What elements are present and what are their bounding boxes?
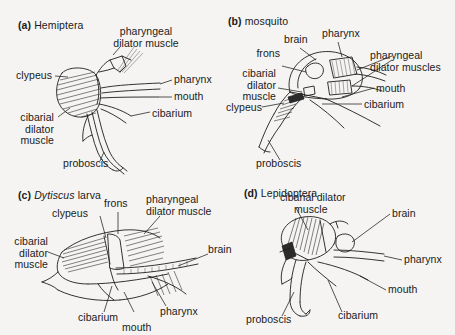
label-a-pharynx: pharynx — [174, 74, 212, 86]
label-a-mouth: mouth — [174, 91, 203, 103]
label-a-cibarium: cibarium — [152, 108, 192, 120]
label-b-mouth: mouth — [376, 83, 405, 95]
label-a-clypeus: clypeus — [0, 70, 52, 82]
label-b-brain: brain — [284, 34, 308, 46]
label-d-brain: brain — [392, 208, 416, 220]
label-b-pharyngeal-dilator-muscles: pharyngeal dilator muscles — [370, 50, 441, 73]
label-b-cibarial-dilator-muscle: cibarial dilator muscle — [216, 68, 276, 103]
label-c-mouth: mouth — [122, 322, 151, 334]
label-d-cibarial-dilator-muscle: cibarial dilator muscle — [280, 192, 346, 215]
label-d-cibarium: cibarium — [338, 310, 378, 322]
label-c-frons: frons — [104, 198, 128, 210]
label-b-frons: frons — [222, 48, 280, 60]
label-a-pharyngeal-dilator-muscle: pharyngeal dilator muscle — [100, 26, 192, 49]
panel-d-lepidoptera: (d) Lepidoptera — [240, 176, 455, 335]
label-c-cibarium: cibarium — [78, 312, 118, 324]
label-c-cibarial-dilator-muscle: cibarial dilator muscle — [0, 236, 48, 271]
label-a-cibarial-dilator-muscle: cibarial dilator muscle — [0, 112, 54, 147]
label-b-pharynx: pharynx — [322, 28, 360, 40]
label-b-clypeus: clypeus — [212, 102, 262, 114]
label-b-cibarium: cibarium — [364, 99, 404, 111]
label-c-brain: brain — [208, 244, 232, 256]
label-a-proboscis: proboscis — [63, 158, 108, 170]
label-d-mouth: mouth — [388, 284, 417, 296]
label-d-pharynx: pharynx — [404, 254, 442, 266]
panel-b-mosquito: (b) mosquito — [222, 0, 455, 176]
label-c-clypeus: clypeus — [52, 208, 88, 220]
label-d-proboscis: proboscis — [246, 314, 291, 326]
insect-head-anatomy-figure: (a) Hemiptera — [0, 0, 455, 335]
label-c-pharyngeal-dilator-muscle: pharyngeal dilator muscle — [146, 194, 211, 217]
panel-a-hemiptera: (a) Hemiptera — [0, 0, 228, 176]
panel-c-dytiscus-larva: (c) Dytiscus larva — [0, 176, 240, 335]
label-c-pharynx: pharynx — [160, 306, 198, 318]
label-b-proboscis: proboscis — [256, 158, 301, 170]
